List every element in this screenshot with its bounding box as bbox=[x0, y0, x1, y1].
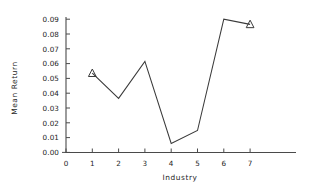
y-tick-label: 0.00 bbox=[43, 148, 60, 157]
x-axis-ticks bbox=[66, 149, 250, 153]
y-tick-label: 0.08 bbox=[43, 30, 60, 39]
x-tick-label: 0 bbox=[64, 159, 69, 168]
chart-container: Mean Return Industry 0.09 0.08 0.07 0.06… bbox=[0, 0, 317, 186]
y-tick-label: 0.03 bbox=[43, 104, 59, 113]
y-tick-label: 0.02 bbox=[43, 119, 59, 128]
x-axis-title: Industry bbox=[162, 173, 197, 182]
x-tick-label: 3 bbox=[143, 159, 148, 168]
y-tick-label: 0.04 bbox=[43, 89, 60, 98]
x-tick-label: 7 bbox=[248, 159, 253, 168]
x-tick-label: 4 bbox=[169, 159, 174, 168]
line-chart: Mean Return Industry 0.09 0.08 0.07 0.06… bbox=[0, 0, 317, 186]
y-tick-label: 0.09 bbox=[43, 15, 60, 24]
x-tick-label: 1 bbox=[90, 159, 95, 168]
y-axis-title: Mean Return bbox=[10, 61, 19, 115]
x-tick-label: 5 bbox=[195, 159, 200, 168]
y-tick-label: 0.01 bbox=[43, 133, 59, 142]
x-tick-label: 2 bbox=[116, 159, 121, 168]
y-tick-label: 0.06 bbox=[43, 59, 60, 68]
y-tick-label: 0.07 bbox=[43, 45, 59, 54]
y-tick-label: 0.05 bbox=[43, 74, 59, 83]
x-tick-label: 6 bbox=[221, 159, 226, 168]
data-point-markers bbox=[88, 20, 254, 76]
data-series-line bbox=[92, 19, 250, 143]
